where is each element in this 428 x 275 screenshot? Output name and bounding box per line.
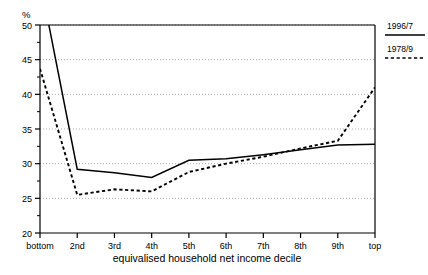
y-tick-label: 30 [22, 159, 32, 169]
line-chart: % 20253035404550 bottom2nd3rd4th5th6th7t… [0, 0, 428, 275]
y-tick-label: 45 [22, 55, 32, 65]
x-tick-label: 6th [220, 241, 233, 251]
x-tick-label: 8th [294, 241, 307, 251]
x-tick-label: 5th [183, 241, 196, 251]
y-tick-label: 25 [22, 194, 32, 204]
y-axis-ticks: 20253035404550 [22, 21, 40, 239]
series-line-1978-9 [40, 69, 375, 195]
x-tick-label: 4th [145, 241, 158, 251]
x-tick-label: 2nd [70, 241, 85, 251]
x-tick-label: top [369, 241, 382, 251]
x-tick-label: bottom [26, 241, 54, 251]
y-tick-label: 20 [22, 229, 32, 239]
gridlines [40, 25, 375, 198]
series-group [40, 0, 375, 195]
y-tick-label: 35 [22, 125, 32, 135]
y-axis-unit-label: % [22, 9, 31, 20]
x-axis-ticks: bottom2nd3rd4th5th6th7th8th9thtop [26, 233, 381, 251]
chart-container: % 20253035404550 bottom2nd3rd4th5th6th7t… [0, 0, 428, 275]
x-tick-label: 7th [257, 241, 270, 251]
legend: 1996/7 1978/9 [385, 21, 425, 58]
legend-label-1996-7: 1996/7 [387, 21, 413, 31]
y-tick-label: 40 [22, 90, 32, 100]
series-line-1996-7 [40, 0, 375, 178]
y-tick-label: 50 [22, 21, 32, 31]
x-tick-label: 9th [332, 241, 345, 251]
x-axis-title: equivalised household net income decile [113, 252, 302, 264]
x-tick-label: 3rd [108, 241, 121, 251]
legend-label-1978-9: 1978/9 [387, 44, 413, 54]
